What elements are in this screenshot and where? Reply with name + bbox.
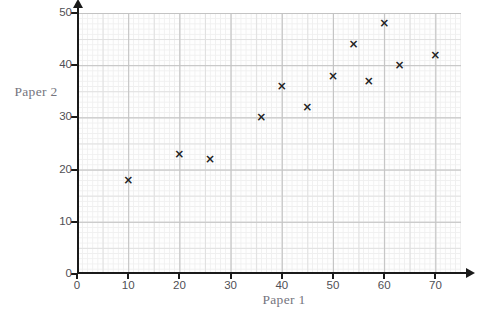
- x-axis-title: Paper 1: [253, 292, 315, 308]
- x-tick-label: 20: [162, 279, 196, 291]
- y-tick-label: 0: [32, 267, 72, 279]
- y-tick-label: 40: [32, 58, 72, 70]
- x-tick-label: 10: [111, 279, 145, 291]
- plot-area: ××××××××××××: [77, 13, 461, 274]
- y-axis-arrow-icon: [73, 0, 83, 8]
- y-tick-label: 50: [32, 6, 72, 18]
- data-point-marker: ×: [328, 69, 338, 81]
- x-tick-label: 50: [316, 279, 350, 291]
- y-axis-line: [77, 5, 79, 274]
- data-point-marker: ×: [123, 174, 133, 186]
- x-tick-label: 40: [265, 279, 299, 291]
- data-point-marker: ×: [395, 59, 405, 71]
- data-point-marker: ×: [174, 147, 184, 159]
- y-tick-label: 20: [32, 163, 72, 175]
- x-tick-label: 70: [418, 279, 452, 291]
- data-point-marker: ×: [205, 153, 215, 165]
- x-axis-line: [77, 272, 468, 274]
- y-tick-label: 30: [32, 110, 72, 122]
- data-point-marker: ×: [430, 48, 440, 60]
- data-point-marker: ×: [277, 80, 287, 92]
- y-tick-label: 10: [32, 215, 72, 227]
- x-axis-arrow-icon: [466, 268, 475, 278]
- y-axis-title: Paper 2: [6, 84, 66, 100]
- data-point-marker: ×: [302, 100, 312, 112]
- data-point-marker: ×: [379, 17, 389, 29]
- x-tick-label: 0: [60, 279, 94, 291]
- data-point-marker: ×: [256, 111, 266, 123]
- x-tick-label: 30: [214, 279, 248, 291]
- data-point-marker: ×: [364, 74, 374, 86]
- scatter-chart: ×××××××××××× Paper 2 Paper 1 01020304050…: [0, 0, 479, 318]
- x-tick-label: 60: [367, 279, 401, 291]
- data-point-marker: ×: [348, 38, 358, 50]
